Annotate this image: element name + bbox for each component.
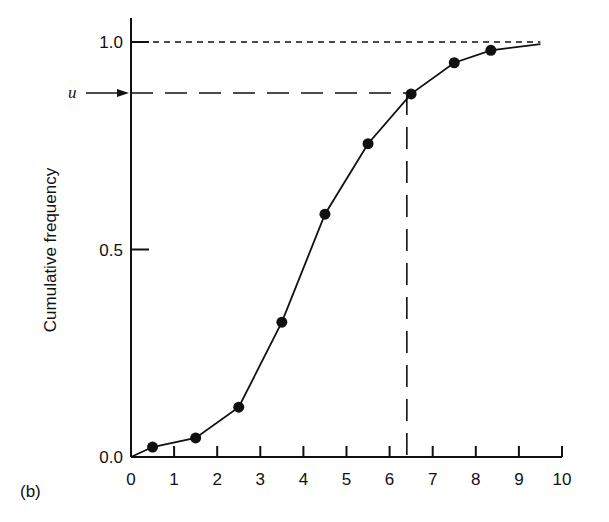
y-axis-label: Cumulative frequency	[41, 167, 60, 332]
data-point-marker	[190, 432, 201, 443]
x-tick-label: 2	[212, 470, 221, 489]
x-tick-label: 9	[514, 470, 523, 489]
x-tick-label: 4	[299, 470, 308, 489]
data-point-marker	[363, 138, 374, 149]
x-tick-label: 6	[385, 470, 394, 489]
cumulative-frequency-chart: 0123456789100.00.51.0 Cumulative frequen…	[0, 0, 609, 522]
x-tick-label: 0	[126, 470, 135, 489]
data-series	[131, 44, 540, 457]
data-point-marker	[233, 402, 244, 413]
data-point-marker	[319, 209, 330, 220]
data-point-marker	[485, 45, 496, 56]
series-line	[131, 44, 540, 457]
data-point-marker	[406, 88, 417, 99]
x-tick-label: 3	[256, 470, 265, 489]
y-tick-label: 0.5	[99, 241, 123, 260]
x-tick-label: 10	[553, 470, 572, 489]
data-point-marker	[147, 442, 158, 453]
x-tick-label: 1	[169, 470, 178, 489]
u-label: u	[68, 83, 77, 102]
x-tick-label: 7	[428, 470, 437, 489]
panel-label: (b)	[20, 482, 41, 501]
y-tick-label: 1.0	[99, 33, 123, 52]
y-tick-label: 0.0	[99, 448, 123, 467]
data-point-marker	[276, 317, 287, 328]
x-tick-label: 8	[471, 470, 480, 489]
x-tick-label: 5	[342, 470, 351, 489]
data-point-marker	[449, 57, 460, 68]
axes: 0123456789100.00.51.0	[99, 18, 571, 489]
annotations	[86, 42, 540, 455]
arrow-right-icon	[117, 89, 129, 97]
